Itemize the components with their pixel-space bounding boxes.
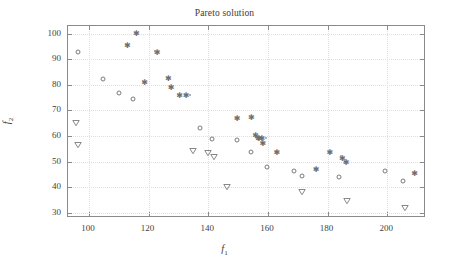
gridline-horizontal	[68, 162, 424, 163]
x-axis-tick-top	[149, 26, 150, 30]
y-axis-tick-label: 100	[35, 28, 61, 38]
x-axis-label: f1	[0, 243, 449, 257]
chart-title: Pareto solution	[0, 8, 449, 18]
x-axis-tick-top	[89, 26, 90, 30]
data-point-dot	[189, 94, 191, 96]
data-point-circle	[235, 137, 240, 142]
y-axis-tick-label: 40	[35, 181, 61, 191]
y-axis-tick	[68, 59, 72, 60]
x-axis-tick-label: 120	[141, 223, 155, 233]
y-axis-tick-label: 30	[35, 207, 61, 217]
gridline-horizontal	[68, 187, 424, 188]
x-axis-tick-label: 140	[200, 223, 214, 233]
y-axis-tick	[68, 85, 72, 86]
x-axis-tick-top	[268, 26, 269, 30]
data-point-star: ✱	[183, 91, 190, 98]
data-point-dot	[154, 50, 156, 52]
y-axis-tick-right	[420, 59, 424, 60]
data-point-star: ✱	[273, 148, 280, 155]
data-point-star: ✱	[259, 139, 266, 146]
data-point-dot	[256, 133, 258, 135]
data-point-circle	[198, 126, 203, 131]
y-axis-tick-right	[420, 213, 424, 214]
data-point-triangle	[223, 177, 231, 184]
gridline-horizontal	[68, 136, 424, 137]
gridline-horizontal	[68, 85, 424, 86]
gridline-horizontal	[68, 110, 424, 111]
data-point-circle	[337, 174, 342, 179]
x-axis-tick-top	[208, 26, 209, 30]
y-axis-tick-right	[420, 85, 424, 86]
data-point-star: ✱	[339, 154, 346, 161]
data-point-star: ✱	[124, 41, 131, 48]
x-axis-tick-label: 200	[379, 223, 393, 233]
y-axis-tick-right	[420, 162, 424, 163]
data-point-circle	[117, 90, 122, 95]
y-axis-tick-right	[420, 110, 424, 111]
y-axis-tick-label: 50	[35, 156, 61, 166]
y-axis-label-subscript: 2	[7, 118, 15, 122]
data-point-triangle	[401, 198, 409, 205]
data-point-triangle	[210, 147, 218, 154]
data-point-circle	[299, 173, 304, 178]
data-point-triangle	[343, 191, 351, 198]
y-axis-tick-label: 90	[35, 53, 61, 63]
data-point-dot	[340, 155, 342, 157]
x-axis-tick-top	[328, 26, 329, 30]
y-axis-tick	[68, 34, 72, 35]
data-point-circle	[291, 169, 296, 174]
y-axis-tick	[68, 136, 72, 137]
y-axis-tick	[68, 110, 72, 111]
data-point-star: ✱	[411, 169, 418, 176]
data-point-star: ✱	[165, 75, 172, 82]
data-point-circle	[400, 178, 405, 183]
data-point-star: ✱	[154, 49, 161, 56]
data-point-star: ✱	[313, 165, 320, 172]
data-point-star: ✱	[248, 113, 255, 120]
plot-area: ✱✱✱✱✱✱✱✱✱✱✱✱✱✱✱✱✱✱✱✱	[67, 25, 425, 217]
x-axis-tick-label: 160	[260, 223, 274, 233]
y-axis-label: f2	[1, 118, 15, 124]
data-point-star: ✱	[176, 91, 183, 98]
y-axis-tick-right	[420, 136, 424, 137]
data-point-dot	[249, 115, 251, 117]
y-axis-tick-label: 70	[35, 104, 61, 114]
data-point-triangle	[189, 140, 197, 147]
gridline-horizontal	[68, 34, 424, 35]
y-axis-tick	[68, 187, 72, 188]
x-axis-label-subscript: 1	[224, 249, 228, 257]
data-point-circle	[209, 137, 214, 142]
x-axis-tick-label: 100	[81, 223, 95, 233]
y-axis-tick-right	[420, 34, 424, 35]
y-axis-tick-right	[420, 187, 424, 188]
y-axis-tick	[68, 162, 72, 163]
figure-canvas: Pareto solution ✱✱✱✱✱✱✱✱✱✱✱✱✱✱✱✱✱✱✱✱ f1 …	[0, 0, 449, 280]
data-point-circle	[249, 149, 254, 154]
x-axis-tick-label: 180	[320, 223, 334, 233]
gridline-horizontal	[68, 59, 424, 60]
data-point-circle	[131, 97, 136, 102]
data-point-circle	[76, 50, 81, 55]
y-axis-label-base: f	[1, 121, 12, 124]
gridline-horizontal	[68, 213, 424, 214]
data-point-circle	[100, 77, 105, 82]
data-point-triangle	[72, 112, 80, 119]
x-axis-tick-top	[387, 26, 388, 30]
y-axis-tick-label: 60	[35, 130, 61, 140]
y-axis-tick-label: 80	[35, 79, 61, 89]
y-axis-tick	[68, 213, 72, 214]
data-point-star: ✱	[234, 114, 241, 121]
